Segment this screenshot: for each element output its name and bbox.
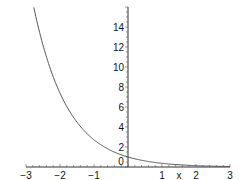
x-tick-label: −1 [88,170,100,180]
chart-container: −3−2−10123x2468101214 [0,0,245,180]
x-tick-label: 3 [227,170,233,180]
function-plot: −3−2−10123x2468101214 [0,0,245,180]
function-curve [34,7,230,166]
x-tick-label: 0 [118,156,124,167]
y-tick-label: 12 [113,42,125,53]
x-tick-label: 1 [159,170,165,180]
y-tick-label: 6 [118,102,124,113]
x-tick-label: −2 [54,170,66,180]
x-tick-label: −3 [20,170,32,180]
y-tick-label: 14 [113,22,125,33]
x-tick-label: 2 [193,170,199,180]
x-axis-label: x [177,170,182,180]
axes [26,7,230,167]
y-tick-label: 10 [113,62,125,73]
y-tick-label: 8 [118,82,124,93]
y-tick-label: 2 [118,142,124,153]
y-tick-label: 4 [118,122,124,133]
